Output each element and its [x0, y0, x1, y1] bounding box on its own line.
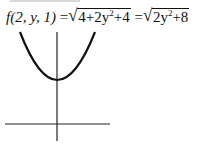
parabola-graph [0, 0, 209, 145]
